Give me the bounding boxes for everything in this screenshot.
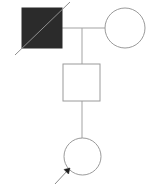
proband-arrow-icon — [55, 170, 68, 184]
person-I-2-female-circle[interactable] — [105, 8, 145, 48]
generation-III-group — [55, 138, 101, 184]
pedigree-chart — [0, 0, 159, 189]
generation-II-group — [63, 64, 100, 101]
pedigree-svg — [0, 0, 159, 189]
person-II-1-male-square[interactable] — [63, 64, 100, 101]
